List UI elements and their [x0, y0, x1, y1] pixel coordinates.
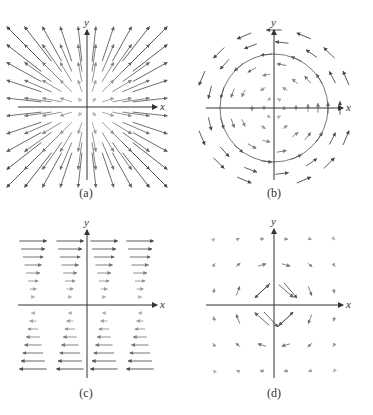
field-arrow	[333, 264, 335, 267]
field-arrow	[292, 79, 298, 84]
field-arrow	[264, 312, 278, 327]
field-arrow	[284, 239, 288, 240]
field-arrow	[123, 62, 150, 81]
field-arrow	[283, 126, 288, 129]
field-arrow	[112, 153, 131, 188]
field-arrow	[267, 98, 270, 100]
field-arrow	[309, 238, 312, 240]
x-axis-label-d: x	[346, 298, 351, 310]
field-arrow	[305, 76, 311, 83]
field-arrow	[60, 45, 72, 72]
field-arrow	[292, 132, 298, 137]
field-arrow	[60, 112, 72, 116]
field-arrow	[237, 370, 240, 372]
vector-field-figure	[0, 0, 373, 415]
field-arrow	[244, 167, 256, 172]
field-arrow	[282, 344, 290, 346]
field-arrow	[329, 72, 335, 84]
field-arrow	[60, 98, 72, 102]
field-arrow	[7, 122, 42, 134]
field-arrow	[343, 131, 349, 145]
field-arrow	[333, 370, 335, 372]
field-arrow	[214, 158, 225, 169]
field-arrow	[334, 317, 335, 322]
field-arrow	[277, 151, 286, 153]
field-arrow	[25, 153, 52, 188]
field-arrow	[343, 71, 349, 85]
field-arrow	[78, 122, 82, 134]
field-arrow	[42, 62, 61, 81]
field-arrow	[213, 264, 215, 267]
y-axis-label-d: y	[271, 215, 276, 227]
field-arrow	[283, 88, 288, 91]
field-arrow	[237, 238, 240, 240]
field-arrow	[78, 80, 82, 92]
field-arrow	[123, 27, 150, 62]
field-arrow	[199, 71, 205, 85]
field-arrow	[7, 80, 42, 92]
field-arrow	[112, 122, 131, 134]
field-arrow	[213, 238, 215, 240]
field-arrow	[102, 153, 114, 188]
x-axis-label-a: x	[160, 100, 165, 112]
field-arrow	[133, 153, 168, 188]
field-arrow	[308, 315, 311, 324]
y-axis-label-b: y	[271, 16, 276, 28]
field-arrow	[260, 371, 264, 372]
field-arrow	[334, 289, 335, 294]
field-arrow	[306, 50, 317, 58]
y-axis-label-c: y	[84, 216, 89, 228]
field-arrow	[112, 80, 131, 92]
x-axis-label-c: x	[160, 298, 165, 310]
field-arrow	[102, 132, 114, 151]
x-axis-label-b: x	[346, 101, 351, 113]
field-arrow	[25, 132, 52, 151]
field-arrow	[102, 27, 114, 62]
field-arrow	[133, 80, 168, 92]
field-arrow	[133, 132, 168, 151]
field-arrow	[112, 45, 131, 72]
field-arrow	[42, 132, 61, 151]
field-arrow	[60, 143, 72, 170]
field-arrow	[42, 27, 61, 62]
field-arrow	[60, 27, 72, 62]
field-arrow	[102, 45, 114, 72]
field-arrow	[236, 287, 239, 296]
field-arrow	[267, 116, 270, 118]
field-arrow	[92, 112, 96, 116]
field-arrow	[308, 287, 311, 296]
field-arrow	[329, 133, 335, 145]
field-arrow	[25, 80, 52, 92]
field-arrow	[123, 153, 150, 188]
field-arrow	[220, 59, 229, 69]
field-arrow	[236, 343, 240, 347]
field-arrow	[112, 143, 131, 170]
field-arrow	[214, 317, 215, 322]
field-arrow	[123, 80, 150, 92]
field-arrow	[278, 312, 293, 327]
field-arrow	[78, 112, 82, 116]
field-arrow	[7, 62, 42, 81]
field-arrow	[333, 238, 335, 240]
field-arrow	[263, 140, 271, 142]
field-arrow	[297, 33, 311, 39]
field-arrow	[248, 68, 256, 73]
field-arrow	[60, 80, 72, 92]
panel-b	[199, 30, 349, 183]
field-arrow	[231, 89, 234, 98]
field-arrow	[208, 86, 211, 99]
field-arrow	[237, 177, 251, 183]
field-arrow	[133, 27, 168, 62]
field-arrow	[133, 62, 168, 81]
field-arrow	[7, 143, 42, 170]
field-arrow	[284, 371, 288, 372]
field-arrow	[236, 315, 239, 324]
field-arrow	[92, 98, 96, 102]
field-arrow	[112, 27, 131, 62]
field-arrow	[244, 44, 256, 49]
field-arrow	[133, 122, 168, 134]
field-arrow	[255, 283, 270, 298]
field-arrow	[324, 48, 335, 59]
field-arrow	[42, 80, 61, 92]
field-arrow	[25, 62, 52, 81]
